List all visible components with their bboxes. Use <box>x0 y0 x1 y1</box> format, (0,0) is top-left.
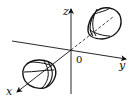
z-axis-label: z <box>62 5 69 18</box>
y-axis <box>12 41 126 59</box>
y-axis-label: y <box>118 59 126 72</box>
origin-label: 0 <box>76 54 82 65</box>
x-axis-hidden <box>71 17 113 50</box>
x-axis-label: x <box>6 85 13 98</box>
hyperboloid-diagram: z 0 y x <box>0 0 136 101</box>
